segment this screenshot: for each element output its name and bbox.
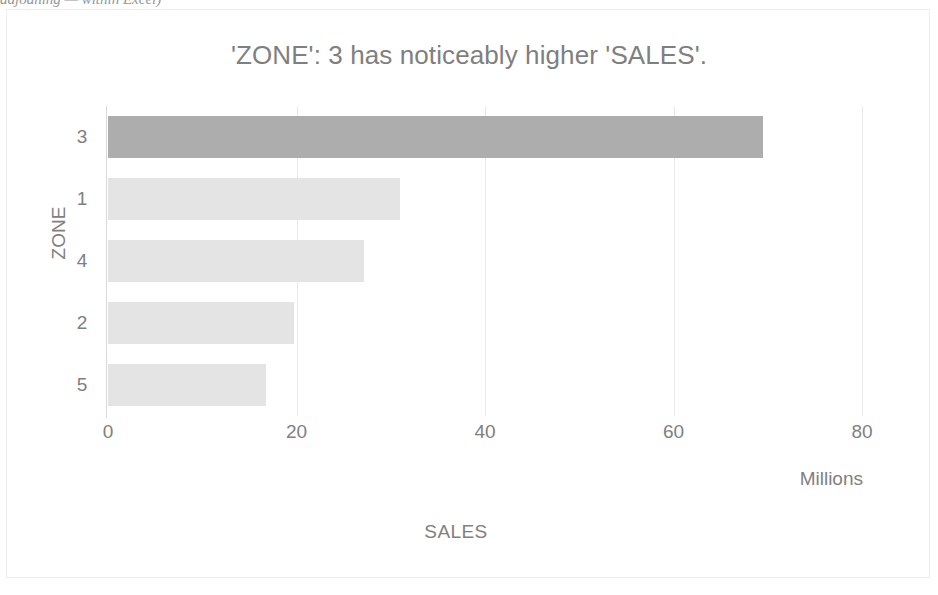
x-axis-tick-labels: 020406080 [108, 422, 862, 452]
y-tick-label-3: 3 [62, 127, 102, 146]
x-tick-label-60: 60 [644, 422, 704, 441]
axis-units-label: Millions [800, 468, 863, 490]
y-tick-label-1: 1 [62, 189, 102, 208]
chart-object-frame[interactable]: 'ZONE': 3 has noticeably higher 'SALES'.… [6, 9, 930, 578]
bar-zone-2[interactable] [108, 302, 294, 344]
x-tick-label-40: 40 [455, 422, 515, 441]
x-axis-title-text: SALES [424, 521, 487, 542]
x-tick-label-20: 20 [267, 422, 327, 441]
bar-zone-5[interactable] [108, 364, 266, 406]
gridline-x-80 [862, 106, 863, 416]
plot-area[interactable] [108, 106, 862, 416]
y-tick-label-2: 2 [62, 313, 102, 332]
y-tick-label-5: 5 [62, 375, 102, 394]
chart-title: 'ZONE': 3 has noticeably higher 'SALES'. [7, 40, 931, 71]
bar-zone-3[interactable] [108, 116, 763, 158]
y-axis-line [106, 106, 107, 418]
bar-zone-4[interactable] [108, 240, 364, 282]
x-tick-label-80: 80 [832, 422, 892, 441]
x-axis-title: SALES [7, 521, 931, 543]
x-tick-label-0: 0 [78, 422, 138, 441]
y-axis-tick-labels: 31425 [58, 106, 102, 416]
y-tick-label-4: 4 [62, 251, 102, 270]
cropped-header-text: adjoaning — within Excel) [0, 0, 938, 7]
bar-zone-1[interactable] [108, 178, 400, 220]
